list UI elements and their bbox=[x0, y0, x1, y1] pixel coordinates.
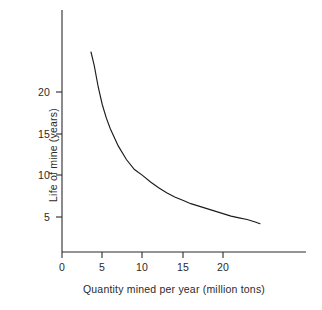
x-tick-label-0: 0 bbox=[59, 261, 65, 273]
x-axis-title: Quantity mined per year (million tons) bbox=[0, 283, 322, 295]
x-tick-label-20: 20 bbox=[217, 261, 229, 273]
x-tick-label-5: 5 bbox=[99, 261, 105, 273]
x-tick-marks bbox=[62, 252, 223, 258]
data-curve-life-of-mine bbox=[91, 52, 260, 224]
x-tick-label-10: 10 bbox=[136, 261, 148, 273]
x-tick-label-15: 15 bbox=[177, 261, 189, 273]
y-tick-label-5: 5 bbox=[28, 211, 50, 223]
y-tick-label-20: 20 bbox=[28, 86, 50, 98]
chart-figure: 20 15 10 5 0 5 10 15 20 Life of mine (ye… bbox=[0, 0, 322, 310]
y-axis-title: Life of mine (years) bbox=[47, 108, 59, 202]
